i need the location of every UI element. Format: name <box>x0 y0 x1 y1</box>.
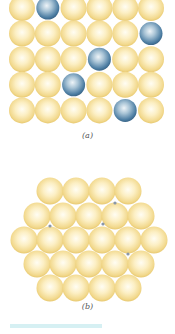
solute-atom <box>88 48 111 71</box>
panel-b-interstitial <box>11 178 168 302</box>
host-atom <box>128 251 155 278</box>
host-atom <box>89 178 116 205</box>
host-atom <box>35 21 61 47</box>
host-atom <box>112 46 138 72</box>
host-atom <box>86 97 112 123</box>
host-atom <box>37 275 64 302</box>
solute-atom <box>62 73 85 96</box>
host-atom <box>35 72 61 98</box>
host-atom <box>9 46 35 72</box>
host-atom <box>115 178 142 205</box>
interstitial-atom <box>48 224 51 227</box>
host-atom <box>138 97 164 123</box>
interstitial-atom <box>113 201 116 204</box>
host-atom <box>112 72 138 98</box>
panel-a-substitutional <box>9 0 164 123</box>
host-atom <box>115 227 142 254</box>
host-atom <box>102 251 129 278</box>
host-atom <box>37 227 64 254</box>
solute-atom <box>114 99 137 122</box>
host-atom <box>9 21 35 47</box>
interstitial-atom <box>101 222 104 225</box>
host-atom <box>61 21 87 47</box>
host-atom <box>61 46 87 72</box>
host-atom <box>61 97 87 123</box>
host-atom <box>112 21 138 47</box>
host-atom <box>86 0 112 21</box>
host-atom <box>9 0 35 21</box>
host-atom <box>76 251 103 278</box>
host-atom <box>50 251 77 278</box>
caption-b: (b) <box>0 302 175 311</box>
host-atom <box>37 178 64 205</box>
host-atom <box>35 46 61 72</box>
host-atom <box>138 46 164 72</box>
host-atom <box>86 72 112 98</box>
host-atom <box>35 97 61 123</box>
host-atom <box>112 0 138 21</box>
solid-solution-diagram <box>0 0 175 334</box>
host-atom <box>9 97 35 123</box>
interstitial-atom <box>126 252 129 255</box>
solute-atom <box>36 0 59 20</box>
host-atom <box>89 275 116 302</box>
host-atom <box>11 227 38 254</box>
host-atom <box>138 72 164 98</box>
solute-atom <box>140 22 163 45</box>
host-atom <box>9 72 35 98</box>
host-atom <box>86 21 112 47</box>
caption-a: (a) <box>0 131 175 140</box>
host-atom <box>24 203 51 230</box>
host-atom <box>63 178 90 205</box>
host-atom <box>138 0 164 21</box>
host-atom <box>102 203 129 230</box>
host-atom <box>128 203 155 230</box>
host-atom <box>61 0 87 21</box>
host-atom <box>76 203 103 230</box>
host-atom <box>63 227 90 254</box>
host-atom <box>89 227 116 254</box>
host-atom <box>141 227 168 254</box>
host-atom <box>63 275 90 302</box>
host-atom <box>50 203 77 230</box>
host-atom <box>115 275 142 302</box>
host-atom <box>24 251 51 278</box>
caption-strip <box>10 324 102 328</box>
